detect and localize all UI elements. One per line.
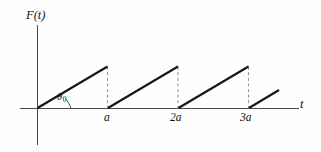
- x-tick-label-2a: 2a: [170, 112, 182, 124]
- angle-label-theta-zero: θ0: [57, 92, 66, 103]
- sawtooth-waveform-figure: F(t) t θ0 a 2a 3a: [0, 0, 321, 152]
- ramp-segment-2: [108, 67, 178, 109]
- ramp-segment-1: [38, 67, 108, 109]
- y-axis-label: F(t): [26, 9, 45, 22]
- x-tick-label-3a: 3a: [240, 112, 252, 124]
- plot-canvas: [0, 0, 321, 152]
- ramp-segment-4-partial: [249, 90, 279, 108]
- angle-label-symbol: θ: [57, 91, 62, 102]
- angle-label-subscript: 0: [63, 95, 67, 104]
- angle-arc: [66, 99, 71, 108]
- x-axis-label: t: [300, 98, 303, 111]
- x-tick-label-a: a: [104, 112, 110, 124]
- ramp-segment-3: [179, 67, 249, 109]
